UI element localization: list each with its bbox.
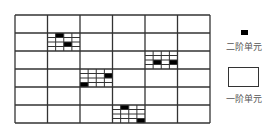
second-order-element <box>153 60 161 65</box>
second-order-element <box>64 42 72 47</box>
legend-second-order-label: 二阶单元 <box>226 40 262 53</box>
second-order-element <box>169 60 177 65</box>
legend-first-order-label: 一阶单元 <box>226 92 262 105</box>
mesh-grid <box>14 14 211 124</box>
second-order-element <box>121 105 129 110</box>
second-order-element <box>104 74 112 79</box>
legend-second-order-icon <box>241 30 248 35</box>
second-order-element <box>80 83 88 88</box>
legend-first-order-icon <box>228 67 259 87</box>
second-order-element <box>56 33 64 38</box>
second-order-element <box>137 119 145 124</box>
